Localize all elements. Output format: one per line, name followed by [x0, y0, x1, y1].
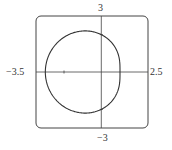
x-max-label: 2.5: [150, 67, 163, 77]
polar-plot: [0, 0, 172, 150]
y-max-label: 3: [98, 3, 103, 13]
y-min-label: −3: [97, 133, 108, 143]
x-min-label: −3.5: [6, 67, 24, 77]
